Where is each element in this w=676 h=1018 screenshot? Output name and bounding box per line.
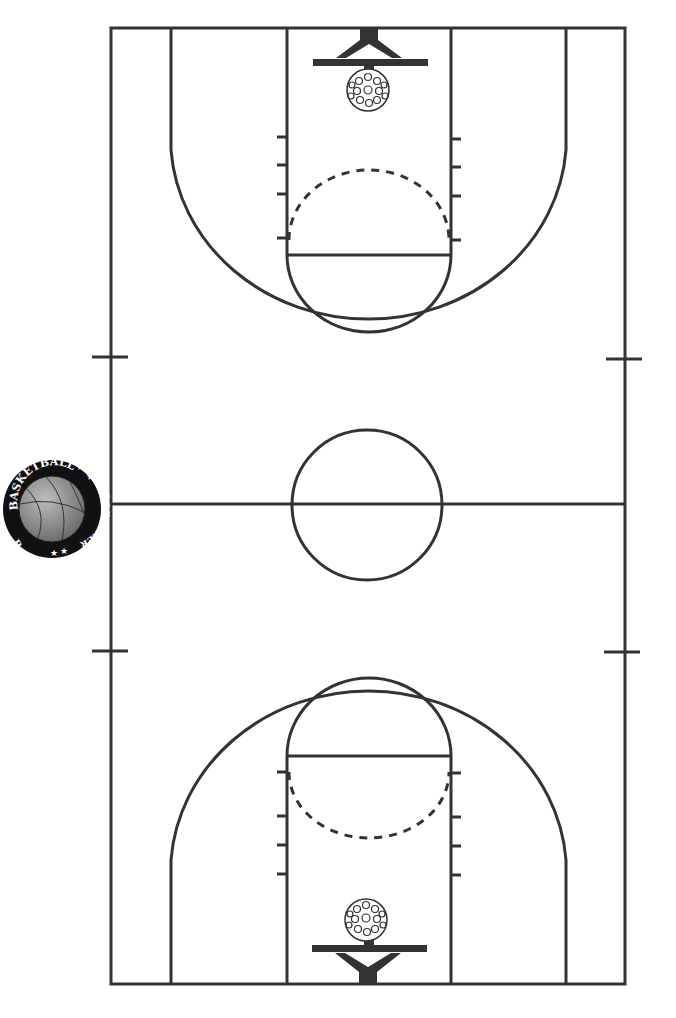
star-icon: ★	[76, 461, 85, 472]
logo-letter: B	[10, 538, 24, 551]
backboard-top	[313, 28, 428, 74]
backboard-bottom	[312, 938, 427, 984]
star-icon: ★	[50, 548, 58, 558]
hoop-net-top	[347, 69, 389, 111]
court-boundary	[111, 28, 625, 984]
basketball-stat-tracker-logo: BASKETBALL STAT TRACKER ★ ★ ★ ★ B	[0, 452, 110, 562]
free-throw-circle-top-dashed	[289, 170, 449, 240]
hoop-net-bottom	[345, 899, 387, 941]
star-icon: ★	[86, 471, 95, 482]
free-throw-circle-bottom-dashed	[289, 772, 449, 838]
star-icon: ★	[60, 546, 68, 556]
basketball-icon	[19, 476, 85, 542]
